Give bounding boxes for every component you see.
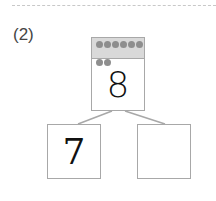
dot-icon <box>128 41 135 48</box>
dot-band <box>92 38 144 59</box>
dot-icon <box>120 41 127 48</box>
whole-number-box: 8 <box>91 37 145 111</box>
part-box-left: 7 <box>47 124 101 179</box>
dot-icon <box>104 41 111 48</box>
whole-value: 8 <box>92 64 144 105</box>
dot-icon <box>96 41 103 48</box>
part-box-right-answer[interactable] <box>137 124 191 179</box>
dot-icon <box>136 41 143 48</box>
dot-icon <box>112 41 119 48</box>
part-value-left: 7 <box>48 131 100 172</box>
